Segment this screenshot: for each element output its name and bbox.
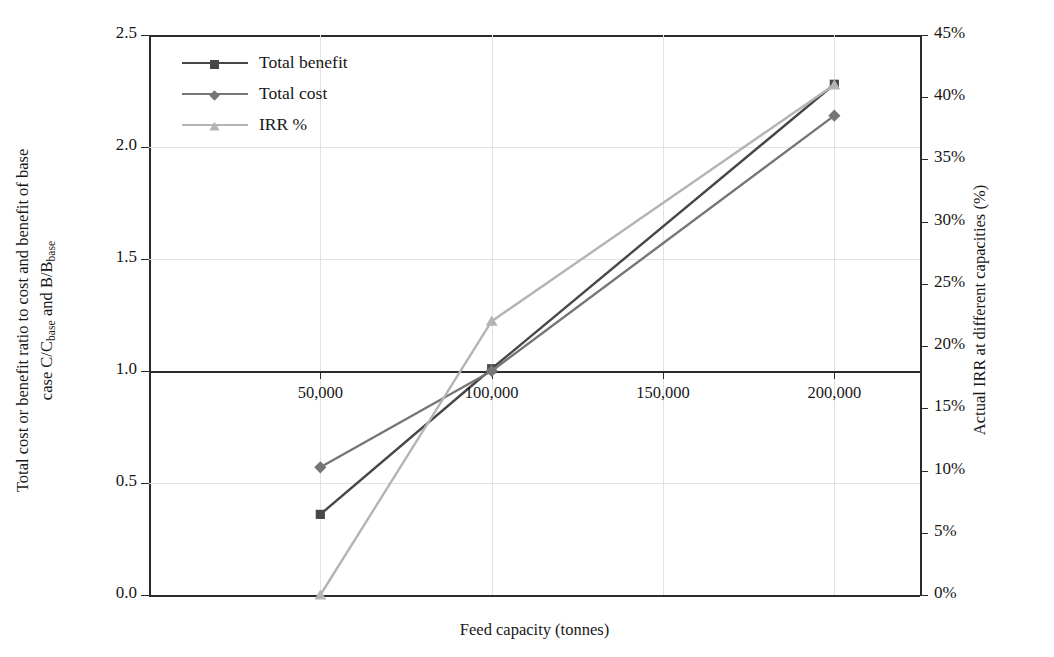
y-axis-right-title: Actual IRR at different capacities (%) [970,30,990,590]
diamond-icon [208,88,221,106]
legend-label-irr: IRR % [259,114,307,135]
y-axis-left-tick [141,371,149,372]
series-line-irr [320,85,834,595]
y-axis-left-title-line2-a: case C/C [37,341,56,400]
y-axis-right-tick [920,408,928,409]
square-icon [208,57,221,75]
y-axis-right-tick [920,533,928,534]
legend-item-total-cost[interactable]: Total cost [182,78,348,109]
y-axis-left-title-sub-base-2: base [45,241,57,262]
axis-spine-right [920,35,922,595]
y-axis-right-tick-label: 40% [934,85,1004,105]
y-axis-left-tick [141,259,149,260]
y-axis-left-tick-label: 0.0 [67,583,137,603]
y-axis-right-tick [920,346,928,347]
axis-spine-bottom [149,595,920,597]
y-axis-right-tick-label: 0% [934,583,1004,603]
y-axis-right-tick-label: 10% [934,459,1004,479]
y-axis-right-tick-label: 30% [934,210,1004,230]
y-axis-left-tick [141,483,149,484]
series-line-total-cost [320,116,834,468]
x-axis-tick-label: 150,000 [593,383,733,403]
y-axis-left-title-line1: Total cost or benefit ratio to cost and … [13,149,32,492]
legend-swatch-total-benefit [182,55,248,71]
y-axis-right-tick-label: 5% [934,521,1004,541]
y-axis-left-tick [141,35,149,36]
y-axis-left-tick-label: 1.5 [67,247,137,267]
x-axis-tick-label: 50,000 [250,383,390,403]
legend-item-total-benefit[interactable]: Total benefit [182,47,348,78]
y-axis-right-tick-label: 45% [934,23,1004,43]
series-line-total-benefit [320,84,834,514]
data-point-total-cost [314,461,326,473]
y-axis-right-tick-label: 15% [934,396,1004,416]
data-point-irr [314,589,326,599]
legend-label-total-cost: Total cost [259,83,327,104]
data-point-total-benefit [316,510,325,519]
legend: Total benefit Total cost IRR [182,47,348,140]
legend-swatch-total-cost [182,86,248,102]
y-axis-right-tick-label: 25% [934,272,1004,292]
legend-swatch-irr [182,117,248,133]
chart-figure: Total cost or benefit ratio to cost and … [0,0,1054,657]
y-axis-right-tick [920,222,928,223]
y-axis-left-tick-label: 1.0 [67,359,137,379]
y-axis-left-tick [141,595,149,596]
legend-label-total-benefit: Total benefit [259,52,348,73]
y-axis-left-tick-label: 2.0 [67,135,137,155]
y-axis-left-tick [141,147,149,148]
y-axis-left-title-line2-b: and B/B [37,262,56,321]
y-axis-right-tick [920,595,928,596]
y-axis-right-tick-label: 20% [934,334,1004,354]
y-axis-right-tick [920,471,928,472]
triangle-icon [208,119,221,137]
plot-area: Total benefit Total cost IRR [149,35,920,595]
x-axis-tick-label: 100,000 [422,383,562,403]
y-axis-left-title-sub-base-1: base [45,320,57,341]
legend-item-irr[interactable]: IRR % [182,109,348,140]
y-axis-left-tick-label: 0.5 [67,471,137,491]
y-axis-right-tick [920,97,928,98]
y-axis-right-tick [920,35,928,36]
y-axis-right-tick-label: 35% [934,147,1004,167]
x-axis-title: Feed capacity (tonnes) [149,620,920,640]
y-axis-left-tick-label: 2.5 [67,23,137,43]
y-axis-left-title: Total cost or benefit ratio to cost and … [11,40,60,600]
y-axis-right-tick [920,284,928,285]
y-axis-right-tick [920,159,928,160]
x-axis-tick-label: 200,000 [764,383,904,403]
